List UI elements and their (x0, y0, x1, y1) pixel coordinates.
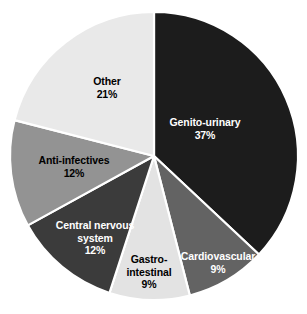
pie-chart: Genito-urinary37%Cardiovascular9%Gastro-… (0, 0, 307, 314)
pie-chart-svg (0, 0, 307, 314)
